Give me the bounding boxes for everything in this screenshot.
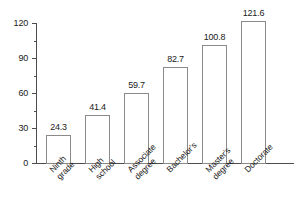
y-axis-minor-tick [34,146,37,147]
bar-value-label: 100.8 [193,33,236,42]
y-axis-minor-tick [34,41,37,42]
bar-chart: 0306090120 24.341.459.782.7100.8121.6 Ni… [0,0,298,223]
y-axis-tick-label: 60 [2,89,28,98]
bar-value-label: 24.3 [37,123,80,132]
y-axis-tick-label: 90 [2,54,28,63]
y-axis-minor-tick [34,76,37,77]
y-axis-major-tick [32,93,37,94]
y-axis-tick-label: 120 [2,19,28,28]
bar [241,21,266,164]
bar-value-label: 59.7 [115,81,158,90]
bar-value-label: 82.7 [154,55,197,64]
y-axis-tick-label: 0 [2,159,28,168]
y-axis-major-tick [32,163,37,164]
y-axis-major-tick [32,58,37,59]
bar-value-label: 41.4 [76,103,119,112]
y-axis-minor-tick [34,111,37,112]
bar-value-label: 121.6 [232,9,275,18]
y-axis-tick-label: 30 [2,124,28,133]
y-axis-major-tick [32,23,37,24]
